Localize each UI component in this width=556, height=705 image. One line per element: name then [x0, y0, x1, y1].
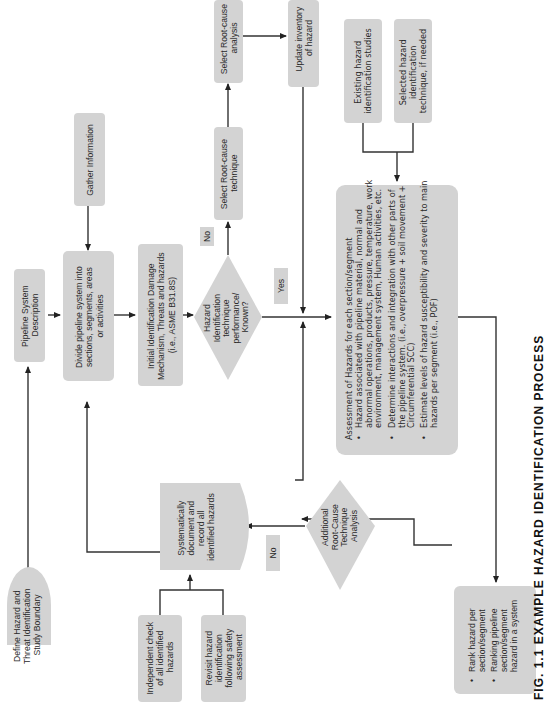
- node-gather-information: Gather Information: [74, 113, 105, 206]
- svg-text:Assessment of Hazards for each: Assessment of Hazards for each section/s…: [344, 237, 354, 440]
- node-rank: • Rank hazard per section/segment • Rank…: [454, 586, 536, 694]
- svg-text:No: No: [268, 547, 278, 558]
- svg-text:•: •: [489, 679, 499, 682]
- merge-check-revisit: [160, 590, 223, 615]
- svg-text:No: No: [202, 231, 212, 242]
- svg-text:Rank hazard per section/: Rank hazard per section/segment: [467, 606, 487, 672]
- arrow-additional-up: [295, 322, 303, 480]
- figure-caption: FIG. 1.1 EXAMPLE HAZARD IDENTIFICATION P…: [532, 335, 546, 700]
- node-pipeline-description: Pipeline System Description: [14, 269, 45, 362]
- label-yes: Yes: [274, 268, 288, 304]
- node-text: Define Hazard and Threat Identification …: [12, 586, 42, 664]
- svg-text:•: •: [419, 435, 429, 440]
- merge-existing-selected: [363, 123, 413, 152]
- svg-text:•: •: [467, 679, 477, 682]
- svg-text:Gather Information: Gather Information: [85, 124, 95, 196]
- node-update-inventory: Update inventory of hazard: [288, 0, 319, 87]
- label-no-top: No: [200, 227, 214, 246]
- node-initial-identification: Initial Identification Damage Mechanism,…: [138, 244, 183, 386]
- hazard-identification-flowchart: Define Hazard and Threat Identification …: [0, 0, 556, 705]
- node-assessment: Assessment of Hazards for each section/s…: [336, 177, 458, 455]
- svg-text:•: •: [387, 435, 397, 440]
- decision-additional-root-cause: Additional Root-Cause Technique Analysis: [306, 480, 375, 590]
- node-revisit: Revisit hazard identification following …: [201, 615, 246, 702]
- svg-text:Yes: Yes: [276, 279, 286, 293]
- svg-text:Revisit hazard identific: Revisit hazard identification following …: [204, 626, 244, 687]
- label-no-bottom: No: [266, 535, 280, 571]
- node-define-boundary: Define Hazard and Threat Identification …: [7, 567, 51, 664]
- node-selected-technique: Selected hazard identification technique…: [394, 19, 432, 123]
- node-divide-pipeline: Divide pipeline system into sections, se…: [63, 251, 114, 381]
- bullet: •: [354, 435, 364, 440]
- decision-hazard-known: Hazard Identification technique performa…: [194, 255, 262, 380]
- node-document-record: Systematically document and record all i…: [160, 483, 249, 570]
- node-existing-studies: Existing hazard identification studies: [344, 19, 382, 123]
- svg-text:Ranking pipeline section: Ranking pipeline section/segment hazard …: [489, 600, 519, 672]
- svg-text:Existing hazard identifi: Existing hazard identification studies: [353, 28, 373, 114]
- node-independent-check: Independent check of all identified haza…: [138, 615, 182, 702]
- node-select-analysis: Select Root-cause analysis: [214, 0, 243, 83]
- svg-text:Hazard associated with pipelin: Hazard associated with pipeline material…: [354, 177, 383, 428]
- node-select-technique: Select Root-cause technique: [214, 127, 243, 220]
